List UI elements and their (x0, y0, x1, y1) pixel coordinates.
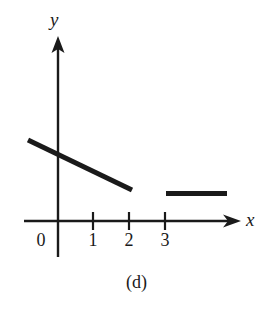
x-axis-label: x (246, 210, 254, 229)
x-tick-label-2: 2 (119, 231, 139, 249)
figure-caption: (d) (0, 272, 273, 294)
coordinate-plot (0, 0, 273, 311)
figure-container: y x 0 1 2 3 (d) (0, 0, 273, 311)
x-tick-label-1: 1 (83, 231, 103, 249)
x-tick-label-3: 3 (155, 231, 175, 249)
y-axis-label: y (50, 10, 58, 29)
x-tick-label-0: 0 (31, 231, 51, 249)
decreasing-line-segment (28, 140, 132, 190)
